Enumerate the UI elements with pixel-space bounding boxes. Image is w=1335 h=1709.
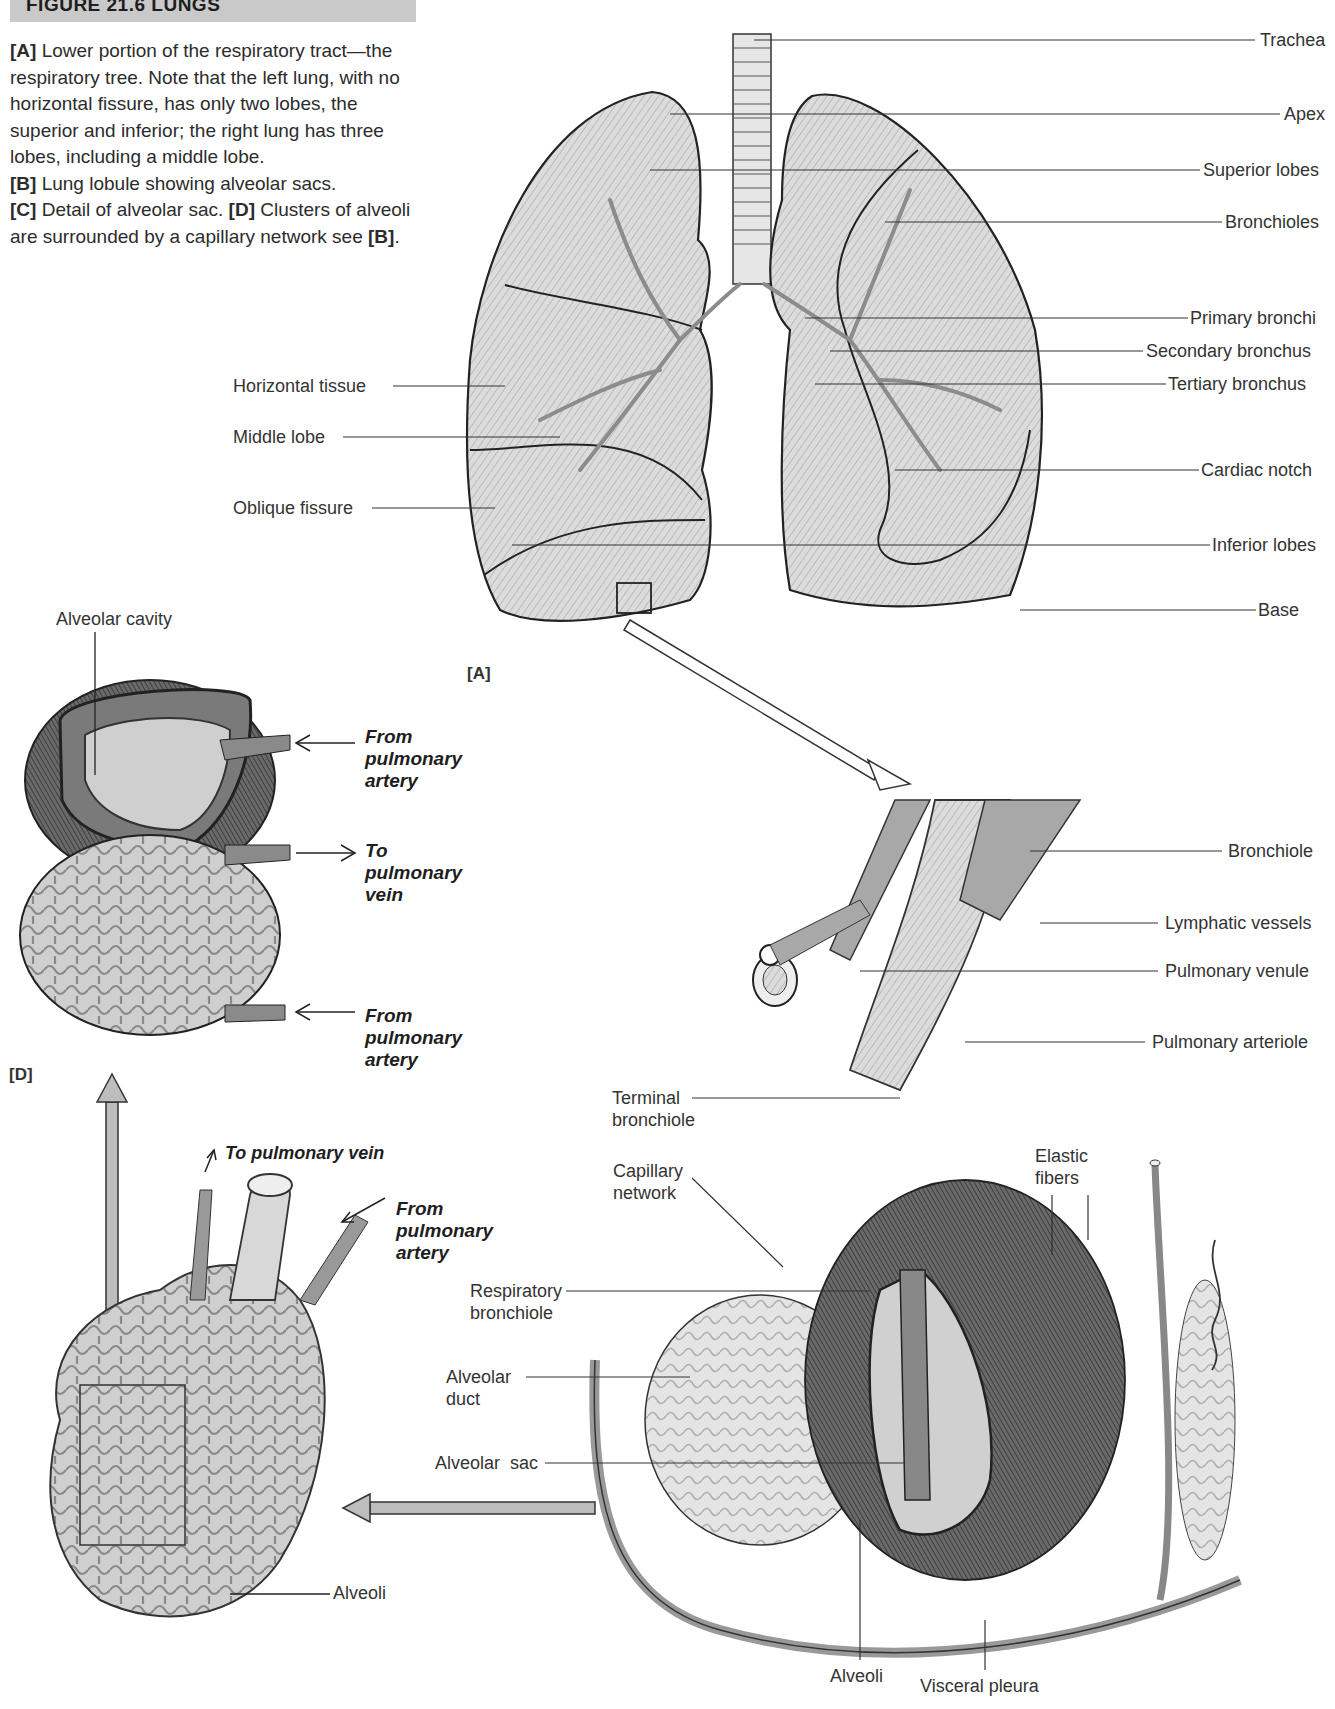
label-alveoli-c: Alveoli	[333, 1582, 386, 1604]
label-alveolar-cavity: Alveolar cavity	[56, 608, 172, 630]
label-base: Base	[1258, 599, 1299, 621]
zoom-arrow-b-to-c	[343, 1494, 595, 1522]
label-inferior-lobes: Inferior lobes	[1212, 534, 1316, 556]
label-pulmonary-venule: Pulmonary venule	[1165, 960, 1309, 982]
label-cardiac-notch: Cardiac notch	[1201, 459, 1312, 481]
lungs-drawing	[343, 34, 1280, 621]
label-capillary-network: Capillary network	[613, 1160, 683, 1204]
label-alveolar-sac: Alveolar sac	[435, 1452, 538, 1474]
label-from-pulmonary-artery-1: From pulmonary artery	[365, 726, 462, 792]
label-from-pulmonary-artery-2: From pulmonary artery	[365, 1005, 462, 1071]
label-to-pulmonary-vein-c: To pulmonary vein	[225, 1142, 384, 1164]
label-pulmonary-arteriole: Pulmonary arteriole	[1152, 1031, 1308, 1053]
label-terminal-bronchiole: Terminal bronchiole	[612, 1087, 695, 1131]
label-middle-lobe: Middle lobe	[233, 426, 325, 448]
panel-label-a: [A]	[467, 664, 491, 684]
label-visceral-pleura: Visceral pleura	[920, 1675, 1039, 1697]
label-from-pulmonary-artery-c: From pulmonary artery	[396, 1198, 493, 1264]
label-secondary-bronchus: Secondary bronchus	[1146, 340, 1311, 362]
label-tertiary-bronchus: Tertiary bronchus	[1168, 373, 1306, 395]
label-apex: Apex	[1284, 103, 1325, 125]
label-alveolar-duct: Alveolar duct	[446, 1366, 511, 1410]
panel-label-d: [D]	[9, 1065, 33, 1085]
label-horizontal-tissue: Horizontal tissue	[233, 375, 366, 397]
label-lymphatic-vessels: Lymphatic vessels	[1165, 912, 1311, 934]
label-superior-lobes: Superior lobes	[1203, 159, 1319, 181]
alveolar-cluster-drawing	[50, 1150, 385, 1616]
label-primary-bronchi: Primary bronchi	[1190, 307, 1316, 329]
label-respiratory-bronchiole: Respiratory bronchiole	[470, 1280, 562, 1324]
alveolar-sac-drawing	[20, 632, 355, 1035]
label-elastic-fibers: Elastic fibers	[1035, 1145, 1088, 1189]
label-alveoli-b: Alveoli	[830, 1665, 883, 1687]
anatomy-illustration	[0, 0, 1335, 1709]
lung-lobule-drawing	[526, 800, 1240, 1670]
label-bronchioles: Bronchioles	[1225, 211, 1319, 233]
label-oblique-fissure: Oblique fissure	[233, 497, 353, 519]
label-trachea: Trachea	[1260, 29, 1325, 51]
label-bronchiole: Bronchiole	[1228, 840, 1313, 862]
label-to-pulmonary-vein: To pulmonary vein	[365, 840, 462, 906]
zoom-arrow-a-to-b	[624, 620, 910, 790]
